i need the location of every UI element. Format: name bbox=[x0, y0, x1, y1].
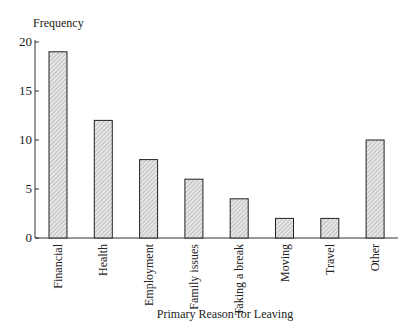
x-tick-label: Employment bbox=[142, 243, 156, 306]
bar bbox=[140, 160, 158, 238]
y-axis-label: Frequency bbox=[33, 16, 84, 30]
x-tick-label: Other bbox=[368, 244, 382, 271]
y-tick-label: 10 bbox=[19, 132, 32, 147]
bar bbox=[276, 218, 294, 238]
y-tick-label: 15 bbox=[19, 83, 32, 98]
x-axis-label: Primary Reason for Leaving bbox=[157, 307, 293, 321]
x-tick-labels: FinancialHealthEmploymentFamily issuesTa… bbox=[51, 243, 382, 315]
x-tick-label: Family issues bbox=[187, 244, 201, 310]
x-tick-label: Financial bbox=[51, 243, 65, 288]
x-tick-label: Health bbox=[96, 244, 110, 276]
x-tick-label: Taking a break bbox=[232, 244, 246, 315]
bar bbox=[321, 218, 339, 238]
x-tick-label: Travel bbox=[323, 243, 337, 275]
bars bbox=[49, 52, 384, 238]
bar bbox=[49, 52, 67, 238]
y-tick-label: 5 bbox=[26, 181, 33, 196]
y-axis: 05101520 bbox=[19, 34, 398, 245]
bar bbox=[185, 179, 203, 238]
x-tick-label: Moving bbox=[278, 244, 292, 282]
bar-chart: Frequency 05101520 FinancialHealthEmploy… bbox=[0, 0, 414, 331]
bar bbox=[366, 140, 384, 238]
bar bbox=[230, 199, 248, 238]
y-tick-label: 20 bbox=[19, 34, 32, 49]
bar bbox=[94, 120, 112, 238]
y-tick-label: 0 bbox=[26, 230, 33, 245]
